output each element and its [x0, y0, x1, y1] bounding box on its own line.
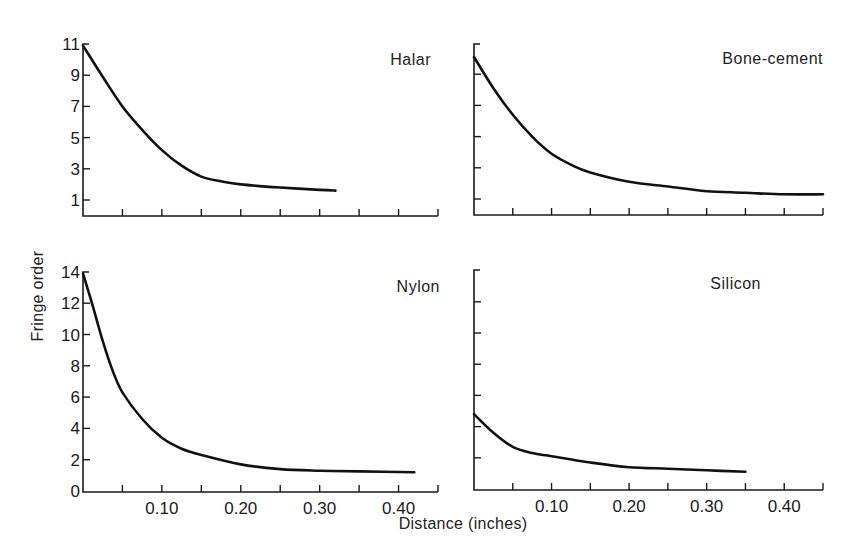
- x-tick-label: 0.40: [768, 497, 801, 516]
- series-curve-nylon: [83, 274, 414, 473]
- panel-label: Bone-cement: [722, 50, 823, 67]
- y-tick-label: 9: [71, 66, 80, 85]
- panel-label: Halar: [390, 51, 431, 68]
- x-tick-label: 0.20: [224, 499, 257, 518]
- figure: 1197531Halar Bone-cement 141210864200.10…: [0, 0, 855, 559]
- y-axis-title: Fringe order: [29, 250, 46, 341]
- x-tick-label: 0.30: [690, 497, 723, 516]
- y-tick-label: 0: [71, 482, 80, 501]
- axis-lines: [83, 44, 438, 216]
- x-tick-label: 0.30: [303, 499, 336, 518]
- y-tick-label: 7: [71, 97, 80, 116]
- panel-label: Silicon: [710, 275, 761, 292]
- y-tick-label: 1: [71, 191, 80, 210]
- y-tick-label: 11: [62, 35, 80, 54]
- y-tick-label: 4: [71, 419, 80, 438]
- x-tick-label: 0.10: [145, 499, 178, 518]
- y-tick-label: 10: [61, 326, 80, 345]
- y-tick-label: 8: [71, 357, 80, 376]
- panel-label: Nylon: [397, 278, 440, 295]
- axis-lines: [83, 272, 438, 492]
- x-axis-title: Distance (inches): [399, 515, 528, 532]
- y-tick-label: 2: [71, 451, 80, 470]
- panel-halar: 1197531Halar: [62, 35, 438, 216]
- panel-silicon: 0.100.200.300.40Silicon: [474, 270, 823, 516]
- series-curve-bone-cement: [474, 57, 823, 194]
- panel-nylon: 141210864200.100.200.300.40Nylon: [61, 263, 440, 518]
- y-tick-label: 6: [71, 388, 80, 407]
- y-tick-label: 14: [61, 263, 80, 282]
- axis-lines: [474, 270, 823, 490]
- y-tick-label: 3: [71, 160, 80, 179]
- series-curve-halar: [83, 46, 335, 191]
- x-tick-label: 0.20: [613, 497, 646, 516]
- series-curve-silicon: [474, 414, 745, 472]
- y-tick-label: 5: [71, 129, 80, 148]
- y-tick-label: 12: [61, 294, 80, 313]
- x-tick-label: 0.10: [535, 497, 568, 516]
- panel-bone-cement: Bone-cement: [474, 44, 823, 215]
